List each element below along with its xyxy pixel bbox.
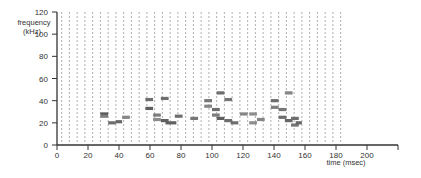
call-segment bbox=[224, 98, 232, 101]
x-tick-label: 160 bbox=[298, 151, 312, 160]
call-segment bbox=[145, 107, 153, 110]
call-segment bbox=[249, 112, 257, 115]
y-tick-label: 120 bbox=[35, 8, 49, 17]
x-tick-label: 120 bbox=[236, 151, 250, 160]
call-segment bbox=[231, 121, 239, 124]
call-segment bbox=[108, 121, 116, 124]
call-segment bbox=[212, 108, 220, 111]
call-segment bbox=[279, 108, 287, 111]
x-tick-label: 80 bbox=[177, 151, 186, 160]
call-segment bbox=[271, 106, 279, 109]
call-segment bbox=[279, 116, 287, 119]
y-tick-label: 40 bbox=[39, 97, 48, 106]
call-segment bbox=[175, 115, 183, 118]
call-segment bbox=[204, 105, 212, 108]
call-segment bbox=[240, 112, 248, 115]
call-segment bbox=[257, 118, 265, 121]
spectrogram-chart: 020406080100120 020406080100120140160180… bbox=[0, 0, 421, 178]
x-axis-title: time (msec) bbox=[326, 158, 366, 167]
call-segment bbox=[249, 121, 257, 124]
call-segment bbox=[285, 91, 293, 94]
x-tick-label: 60 bbox=[146, 151, 155, 160]
call-segment bbox=[296, 121, 302, 124]
x-tick-label: 0 bbox=[55, 151, 60, 160]
call-segment bbox=[161, 97, 169, 100]
y-tick-label: 60 bbox=[39, 75, 48, 84]
call-segment bbox=[166, 121, 177, 124]
y-tick-label: 80 bbox=[39, 52, 48, 61]
call-segment bbox=[145, 98, 153, 101]
x-tick-label: 20 bbox=[84, 151, 93, 160]
call-segment bbox=[153, 118, 161, 121]
call-segment bbox=[116, 120, 122, 123]
call-segment bbox=[190, 117, 198, 120]
y-axis-title-line2: (kHz) bbox=[23, 27, 41, 36]
x-tick-label: 100 bbox=[205, 151, 219, 160]
call-segment bbox=[271, 99, 279, 102]
call-segment bbox=[217, 91, 225, 94]
x-tick-label: 140 bbox=[267, 151, 281, 160]
call-segment bbox=[204, 99, 212, 102]
y-axis-title-line1: frequency bbox=[18, 18, 51, 27]
y-tick-label: 0 bbox=[44, 141, 49, 150]
x-tick-label: 40 bbox=[115, 151, 124, 160]
call-segment bbox=[153, 113, 161, 116]
call-segment bbox=[100, 115, 108, 118]
call-segment bbox=[291, 117, 299, 120]
call-segment bbox=[212, 113, 220, 116]
call-segment bbox=[122, 116, 130, 119]
call-segment bbox=[217, 117, 225, 120]
y-tick-label: 20 bbox=[39, 119, 48, 128]
